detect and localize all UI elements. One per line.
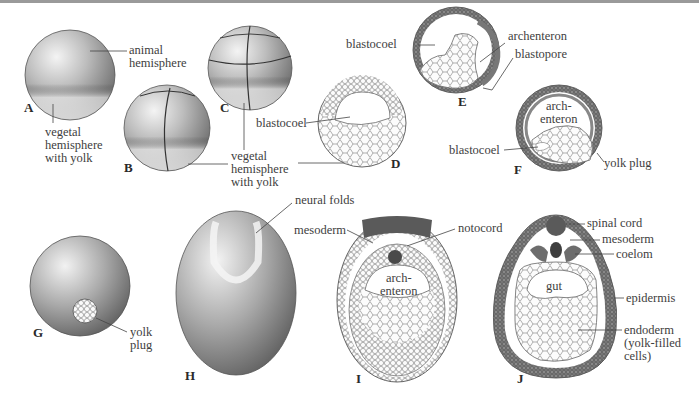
label-animal-hemisphere: animal hemisphere (129, 44, 187, 70)
panel-g-yolk-plug (30, 236, 130, 336)
panel-letter-b: B (124, 160, 133, 176)
label-yolk-plug-f: yolk plug (604, 157, 652, 170)
label-archenteron-e: archenteron (508, 30, 567, 43)
panel-letter-c: C (220, 100, 229, 116)
label-blastocoel-f: blastocoel (449, 144, 500, 157)
panel-letter-f: F (514, 162, 522, 178)
label-blastocoel-e: blastocoel (346, 38, 397, 51)
label-neural-folds: neural folds (295, 194, 354, 207)
panel-e-gastrula (413, 7, 513, 93)
label-mesoderm-j: mesoderm (602, 233, 654, 246)
label-spinal-cord: spinal cord (587, 217, 642, 230)
label-yolk-plug-g: yolk plug (130, 326, 152, 352)
label-vegetal-hemisphere-a: vegetal hemisphere with yolk (45, 126, 103, 165)
panel-h-neurula (176, 203, 296, 375)
label-mesoderm-i: mesoderm (294, 224, 346, 237)
panel-letter-d: D (391, 156, 400, 172)
panel-letter-h: H (185, 368, 195, 384)
label-vegetal-hemisphere-c: vegetal hemisphere with yolk (231, 150, 289, 189)
label-epidermis: epidermis (626, 292, 675, 305)
label-archenteron-i: arch- enteron (380, 272, 417, 298)
label-archenteron-f: arch- enteron (540, 100, 577, 126)
label-blastopore: blastopore (515, 48, 567, 61)
panel-letter-i: I (356, 371, 361, 387)
panel-letter-g: G (33, 325, 43, 341)
panel-i-neurula-section (337, 216, 457, 382)
panel-d-blastula (306, 75, 406, 167)
label-blastocoel-d: blastocoel (256, 117, 307, 130)
panel-f-gastrula (504, 85, 604, 171)
panel-letter-e: E (458, 94, 467, 110)
label-notocord: notocord (458, 222, 502, 235)
panel-b-cleavage (124, 85, 228, 171)
panel-letter-j: J (517, 371, 524, 387)
panel-letter-a: A (24, 100, 33, 116)
label-gut: gut (546, 280, 562, 293)
label-coelom: coelom (616, 248, 653, 261)
panel-a-egg (25, 30, 127, 123)
label-endoderm: endoderm (yolk-filled cells) (624, 324, 681, 363)
